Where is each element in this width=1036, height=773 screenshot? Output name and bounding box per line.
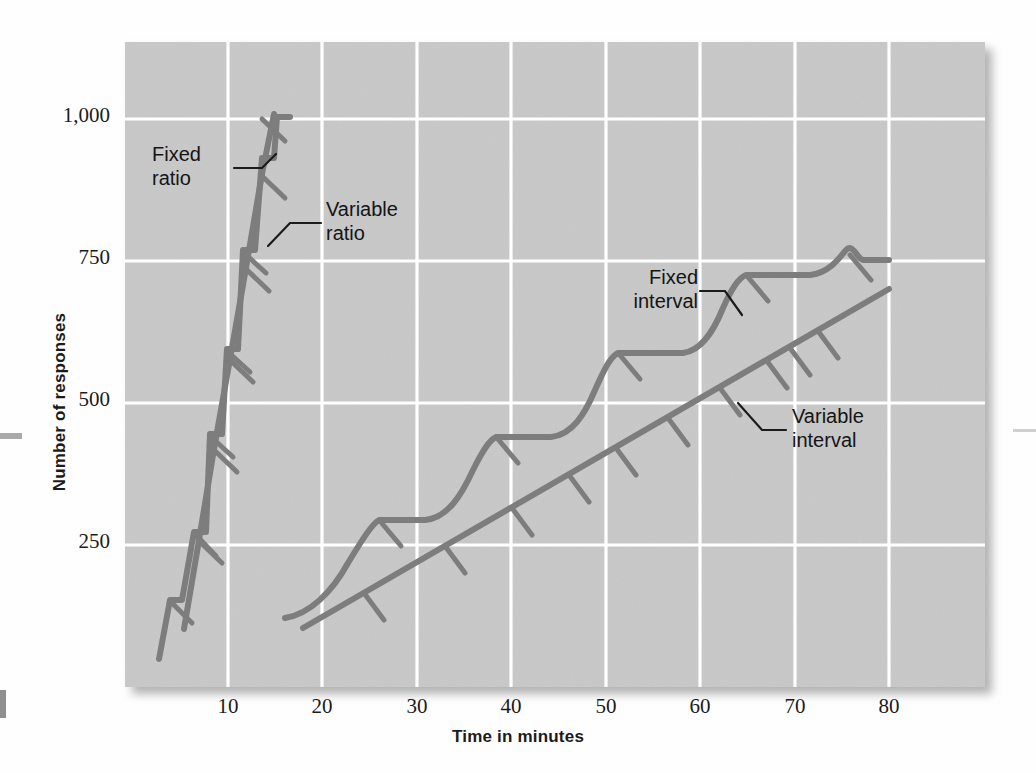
x-tick-label-60: 60 bbox=[670, 694, 730, 719]
x-tick-label-20: 20 bbox=[292, 694, 352, 719]
label-variable-ratio: Variable ratio bbox=[326, 198, 398, 245]
x-tick-label-80: 80 bbox=[859, 694, 919, 719]
plot-panel bbox=[125, 42, 985, 687]
label-fixed-interval: Fixed interval bbox=[580, 266, 698, 313]
x-tick-label-70: 70 bbox=[765, 694, 825, 719]
x-tick-label-30: 30 bbox=[387, 694, 447, 719]
x-axis-title: Time in minutes bbox=[0, 727, 1036, 747]
x-tick-label-40: 40 bbox=[481, 694, 541, 719]
label-fixed-ratio: Fixed ratio bbox=[152, 143, 201, 190]
y-axis-title: Number of responses bbox=[50, 242, 70, 562]
x-tick-label-50: 50 bbox=[576, 694, 636, 719]
y-tick-label-1000: 1,000 bbox=[0, 103, 110, 128]
label-variable-interval: Variable interval bbox=[792, 405, 864, 452]
cumulative-response-chart bbox=[0, 0, 1036, 773]
x-tick-label-10: 10 bbox=[198, 694, 258, 719]
figure-container: 1,000 750 500 250 10 20 30 40 50 60 70 8… bbox=[0, 0, 1036, 773]
